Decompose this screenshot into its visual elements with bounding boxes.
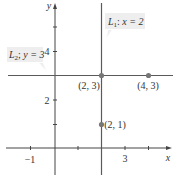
y-axis-label: y bbox=[46, 0, 52, 11]
point-label-2-3: (2, 3) bbox=[78, 80, 100, 92]
x-axis-label: x bbox=[165, 152, 171, 163]
x-axis-arrow-icon bbox=[166, 146, 172, 150]
line-equation: y = 3 bbox=[22, 49, 44, 60]
y-tick-label: 2 bbox=[45, 95, 50, 106]
callout-tail bbox=[38, 62, 47, 72]
line-equation: x = 2 bbox=[121, 16, 143, 27]
x-tick-label: 3 bbox=[123, 153, 128, 164]
y-tick-label: 4 bbox=[45, 46, 50, 57]
point-2-3 bbox=[99, 73, 104, 78]
point-label-4-3: (4, 3) bbox=[137, 80, 159, 92]
y-axis-arrow-icon bbox=[53, 3, 57, 9]
callout-l1: L1: x = 2 bbox=[105, 13, 146, 40]
coordinate-plane-figure: −1 3 2 4 x y (2, 3) (4, 3) (2, 1) L1: x … bbox=[0, 0, 180, 185]
point-label-2-1: (2, 1) bbox=[104, 119, 126, 131]
callout-l2: L2; y = 3 bbox=[7, 47, 48, 73]
point-4-3 bbox=[146, 73, 151, 78]
callout-tail bbox=[106, 29, 113, 39]
x-tick-label: −1 bbox=[25, 154, 36, 165]
